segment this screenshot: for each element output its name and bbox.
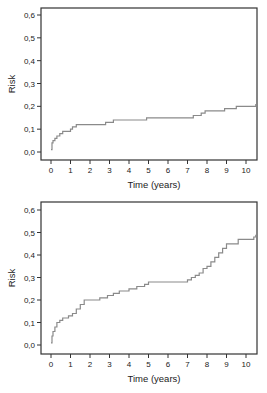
risk-step-curve bbox=[51, 235, 256, 343]
x-tick-label: 5 bbox=[146, 166, 151, 175]
y-tick-label: 0,5 bbox=[24, 229, 36, 238]
y-tick-label: 0,3 bbox=[24, 80, 36, 89]
x-tick-label: 1 bbox=[68, 360, 73, 369]
y-tick-label: 0,5 bbox=[24, 34, 36, 43]
x-tick-label: 5 bbox=[146, 360, 151, 369]
plot-frame bbox=[41, 202, 257, 354]
y-tick-label: 0,3 bbox=[24, 274, 36, 283]
x-tick-label: 4 bbox=[127, 166, 132, 175]
x-tick-label: 7 bbox=[185, 360, 190, 369]
y-tick-label: 0,6 bbox=[24, 11, 36, 20]
x-axis-title: Time (years) bbox=[128, 179, 181, 190]
y-tick-label: 0,0 bbox=[24, 148, 36, 157]
x-tick-label: 6 bbox=[166, 360, 171, 369]
y-tick-label: 0,6 bbox=[24, 206, 36, 215]
x-tick-label: 3 bbox=[107, 166, 112, 175]
y-tick-label: 0,4 bbox=[24, 251, 36, 260]
x-tick-label: 2 bbox=[88, 360, 93, 369]
chart-top: 0,00,10,20,30,40,50,6012345678910Time (y… bbox=[0, 0, 267, 196]
chart-bottom-svg: 0,00,10,20,30,40,50,6012345678910Time (y… bbox=[0, 195, 267, 393]
plot-frame bbox=[41, 8, 257, 160]
y-axis-title: Risk bbox=[6, 75, 17, 94]
x-tick-label: 9 bbox=[224, 360, 229, 369]
x-tick-label: 6 bbox=[166, 166, 171, 175]
x-tick-label: 0 bbox=[49, 166, 54, 175]
x-tick-label: 4 bbox=[127, 360, 132, 369]
x-axis-title: Time (years) bbox=[128, 373, 181, 384]
x-tick-label: 2 bbox=[88, 166, 93, 175]
x-tick-label: 9 bbox=[224, 166, 229, 175]
x-tick-label: 3 bbox=[107, 360, 112, 369]
x-tick-label: 10 bbox=[242, 166, 251, 175]
y-tick-label: 0,1 bbox=[24, 319, 36, 328]
y-tick-label: 0,1 bbox=[24, 125, 36, 134]
x-tick-label: 10 bbox=[242, 360, 251, 369]
chart-bottom: 0,00,10,20,30,40,50,6012345678910Time (y… bbox=[0, 195, 267, 391]
risk-step-curve bbox=[51, 104, 256, 150]
x-tick-label: 7 bbox=[185, 166, 190, 175]
x-tick-label: 0 bbox=[49, 360, 54, 369]
chart-top-svg: 0,00,10,20,30,40,50,6012345678910Time (y… bbox=[0, 0, 267, 196]
x-tick-label: 1 bbox=[68, 166, 73, 175]
x-tick-label: 8 bbox=[205, 360, 210, 369]
y-tick-label: 0,0 bbox=[24, 341, 36, 350]
x-tick-label: 8 bbox=[205, 166, 210, 175]
y-tick-label: 0,2 bbox=[24, 102, 36, 111]
y-tick-label: 0,4 bbox=[24, 57, 36, 66]
y-axis-title: Risk bbox=[6, 269, 17, 288]
y-tick-label: 0,2 bbox=[24, 296, 36, 305]
